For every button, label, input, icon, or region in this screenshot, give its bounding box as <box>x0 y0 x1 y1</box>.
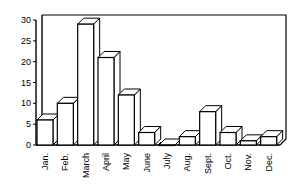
x-tick-label: Feb. <box>60 153 70 171</box>
x-tick-label: July <box>162 153 172 170</box>
bar <box>220 127 242 146</box>
x-tick-label: May <box>121 153 131 171</box>
y-tick-label: 25 <box>21 36 31 46</box>
bar <box>179 131 201 145</box>
y-tick-label: 30 <box>21 15 31 25</box>
y-tick-label: 0 <box>26 140 31 150</box>
bar <box>240 135 262 145</box>
plot-area: 051015202530Jan.Feb.MarchAprilMayJuneJul… <box>21 15 286 178</box>
bar <box>118 89 140 145</box>
bar <box>261 131 283 145</box>
y-tick-label: 20 <box>21 57 31 67</box>
x-tick-label: Aug. <box>182 153 192 172</box>
x-tick-label: March <box>81 153 91 178</box>
y-tick-label: 10 <box>21 98 31 108</box>
bar <box>200 106 222 145</box>
bar <box>98 52 120 146</box>
bar-chart: 051015202530Jan.Feb.MarchAprilMayJuneJul… <box>0 0 301 187</box>
bar <box>139 127 161 146</box>
x-tick-label: June <box>142 153 152 173</box>
x-tick-label: Sept. <box>203 153 213 174</box>
bar <box>37 114 59 145</box>
x-tick-label: Jan. <box>40 153 50 170</box>
y-tick-label: 5 <box>26 119 31 129</box>
x-tick-label: Oct. <box>223 153 233 170</box>
y-tick-label: 15 <box>21 78 31 88</box>
bar <box>57 97 79 145</box>
x-tick-label: Nov. <box>243 153 253 171</box>
x-tick-label: April <box>101 153 111 171</box>
bar <box>78 18 100 145</box>
x-tick-label: Dec. <box>264 153 274 172</box>
